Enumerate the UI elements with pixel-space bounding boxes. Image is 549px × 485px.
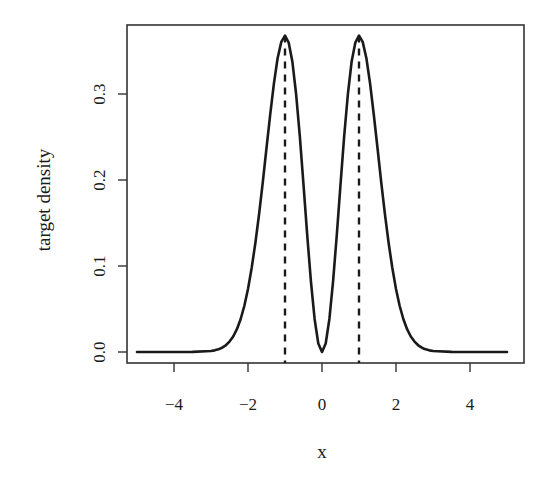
x-tick-label: −4	[165, 395, 184, 414]
x-axis: −4−2024	[165, 363, 475, 414]
chart-canvas: −4−2024 0.00.10.20.3 x target density	[0, 0, 549, 485]
y-tick-label: 0.1	[90, 255, 109, 276]
x-tick-label: 2	[392, 395, 401, 414]
y-tick-label: 0.3	[90, 83, 109, 104]
y-axis-title: target density	[33, 148, 54, 251]
x-tick-label: −2	[239, 395, 257, 414]
plot-frame	[127, 25, 524, 363]
y-tick-label: 0.0	[90, 341, 109, 362]
y-tick-label: 0.2	[90, 169, 109, 190]
chart: −4−2024 0.00.10.20.3 x target density	[0, 0, 549, 485]
x-axis-title: x	[317, 441, 327, 462]
x-tick-label: 4	[466, 395, 475, 414]
x-tick-label: 0	[318, 395, 327, 414]
y-axis: 0.00.10.20.3	[90, 83, 127, 362]
density-curve	[137, 36, 507, 352]
